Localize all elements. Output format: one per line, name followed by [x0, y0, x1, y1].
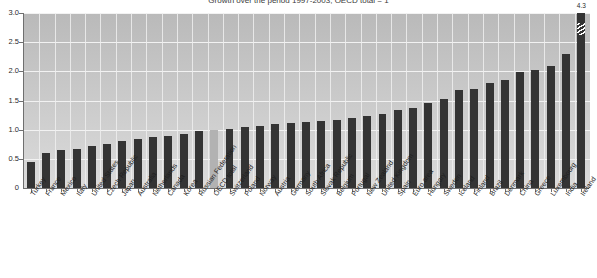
- bar-norway[interactable]: [256, 13, 264, 188]
- bar-rect: [409, 108, 417, 189]
- chart-title: Growth over the period 1997-2003, OECD t…: [0, 0, 597, 5]
- bar-hungary[interactable]: [424, 13, 432, 188]
- bar-new-zealand[interactable]: [363, 13, 371, 188]
- bar-denmark[interactable]: [501, 13, 509, 188]
- bar-korea[interactable]: [180, 13, 188, 188]
- bar-oecd-total[interactable]: [210, 13, 218, 188]
- y-axis-tick-label: 2.5: [0, 38, 19, 46]
- chart-root: Growth over the period 1997-2003, OECD t…: [0, 0, 597, 278]
- y-axis-tick-label: 3.0: [0, 9, 19, 17]
- bar-canada[interactable]: [164, 13, 172, 188]
- value-annotation: 4.3: [577, 2, 586, 9]
- bar-united-states[interactable]: [88, 13, 96, 188]
- bar-brazil[interactable]: [486, 13, 494, 188]
- bar-rect: [547, 66, 555, 189]
- bar-rect: [531, 70, 539, 188]
- bar-ireland[interactable]: [577, 13, 585, 188]
- broken-axis-slash-icon: [577, 23, 585, 35]
- bar-rect: [501, 80, 509, 189]
- y-axis-tick-label: 1.5: [0, 97, 19, 105]
- bar-luxembourg[interactable]: [547, 13, 555, 188]
- bar-china[interactable]: [516, 13, 524, 188]
- bar-poland[interactable]: [241, 13, 249, 188]
- bar-rect: [88, 146, 96, 188]
- bar-india[interactable]: [562, 13, 570, 188]
- bar-rect: [486, 83, 494, 188]
- bar-finland[interactable]: [470, 13, 478, 188]
- bar-france[interactable]: [42, 13, 50, 188]
- bar-series: [23, 13, 589, 188]
- bar-austria[interactable]: [271, 13, 279, 188]
- bar-iceland[interactable]: [455, 13, 463, 188]
- bar-sweden[interactable]: [440, 13, 448, 188]
- bar-mexico[interactable]: [57, 13, 65, 188]
- bar-slovak-republic[interactable]: [317, 13, 325, 188]
- bar-italy[interactable]: [73, 13, 81, 188]
- y-axis-tick-label: 0.5: [0, 155, 19, 163]
- bar-south-africa[interactable]: [302, 13, 310, 188]
- bar-russian-federation[interactable]: [195, 13, 203, 188]
- bar-greece[interactable]: [531, 13, 539, 188]
- bar-czech-republic[interactable]: [103, 13, 111, 188]
- bar-turkey[interactable]: [27, 13, 35, 188]
- y-axis-tick-label: 0: [0, 184, 19, 192]
- bar-rect: [577, 13, 585, 188]
- bar-netherlands[interactable]: [149, 13, 157, 188]
- bar-rect: [470, 89, 478, 188]
- bar-rect: [27, 162, 35, 188]
- bar-germany[interactable]: [287, 13, 295, 188]
- y-axis-tick-label: 1.0: [0, 126, 19, 134]
- y-axis-tick-label: 2.0: [0, 67, 19, 75]
- footer-note: [0, 268, 597, 278]
